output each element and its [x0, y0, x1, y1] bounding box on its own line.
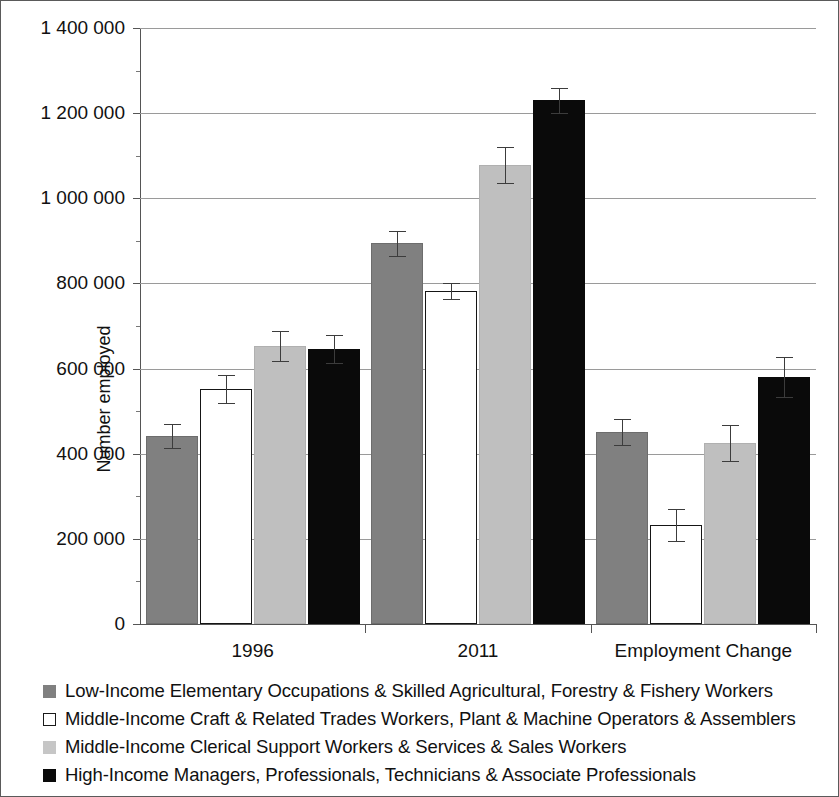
- error-bar-cap-lower: [389, 256, 406, 257]
- error-bar-stem: [172, 424, 173, 448]
- x-group-tick: [365, 624, 366, 633]
- legend-swatch-icon: [43, 685, 56, 698]
- bar: [425, 291, 477, 624]
- error-bar-stem: [280, 331, 281, 361]
- error-bar-cap-lower: [272, 361, 289, 362]
- error-bar-stem: [559, 88, 560, 114]
- y-tick-label: 800 000: [56, 273, 125, 292]
- gridline: [140, 198, 816, 199]
- error-bar-stem: [334, 335, 335, 363]
- error-bar-cap-upper: [272, 331, 289, 332]
- legend-label: Middle-Income Craft & Related Trades Wor…: [65, 708, 796, 730]
- y-tick-major: [133, 28, 140, 29]
- error-bar-cap-lower: [722, 461, 739, 462]
- error-bar-cap-upper: [164, 424, 181, 425]
- y-tick-minor: [136, 411, 140, 412]
- gridline: [140, 369, 816, 370]
- error-bar-cap-upper: [722, 425, 739, 426]
- bar: [704, 443, 756, 624]
- error-bar-stem: [622, 419, 623, 445]
- chart-figure: Number employed 19962011Employment Chang…: [0, 0, 839, 797]
- legend-item: High-Income Managers, Professionals, Tec…: [43, 761, 823, 789]
- error-bar-cap-lower: [497, 183, 514, 184]
- y-tick-minor: [136, 581, 140, 582]
- error-bar-cap-upper: [326, 335, 343, 336]
- gridline: [140, 28, 816, 29]
- bar: [596, 432, 648, 624]
- y-tick-major: [133, 454, 140, 455]
- error-bar-cap-upper: [551, 88, 568, 89]
- y-tick-label: 400 000: [56, 444, 125, 463]
- y-tick-major: [133, 113, 140, 114]
- x-group-tick: [591, 624, 592, 633]
- y-tick-label: 200 000: [56, 529, 125, 548]
- y-tick-minor: [136, 156, 140, 157]
- error-bar-cap-upper: [497, 147, 514, 148]
- legend-item: Low-Income Elementary Occupations & Skil…: [43, 677, 823, 705]
- y-tick-label: 600 000: [56, 359, 125, 378]
- legend-swatch-icon: [43, 713, 56, 726]
- error-bar-cap-lower: [164, 448, 181, 449]
- error-bar-cap-upper: [668, 509, 685, 510]
- error-bar-cap-upper: [614, 419, 631, 420]
- bar: [533, 100, 585, 624]
- y-tick-minor: [136, 71, 140, 72]
- y-tick-major: [133, 198, 140, 199]
- error-bar-cap-lower: [551, 113, 568, 114]
- plot-area: 19962011Employment Change: [140, 28, 816, 624]
- error-bar-cap-lower: [218, 403, 235, 404]
- y-tick-major: [133, 624, 140, 625]
- y-tick-major: [133, 369, 140, 370]
- error-bar-stem: [226, 375, 227, 403]
- error-bar-cap-lower: [614, 445, 631, 446]
- error-bar-stem: [676, 509, 677, 541]
- gridline: [140, 113, 816, 114]
- error-bar-cap-upper: [389, 231, 406, 232]
- error-bar-cap-upper: [776, 357, 793, 358]
- chart-legend: Low-Income Elementary Occupations & Skil…: [43, 677, 823, 789]
- error-bar-cap-lower: [443, 299, 460, 300]
- bar: [200, 389, 252, 624]
- bar: [758, 377, 810, 624]
- bar: [146, 436, 198, 624]
- legend-label: Low-Income Elementary Occupations & Skil…: [65, 680, 773, 702]
- bar: [371, 243, 423, 624]
- x-tick-label: 1996: [140, 640, 365, 662]
- y-tick-major: [133, 539, 140, 540]
- y-axis-line: [140, 28, 141, 624]
- error-bar-stem: [505, 147, 506, 183]
- legend-label: Middle-Income Clerical Support Workers &…: [65, 736, 626, 758]
- x-tick-label: Employment Change: [591, 640, 816, 662]
- x-group-tick: [816, 624, 817, 633]
- gridline: [140, 283, 816, 284]
- error-bar-cap-lower: [668, 541, 685, 542]
- legend-item: Middle-Income Clerical Support Workers &…: [43, 733, 823, 761]
- bar: [254, 346, 306, 624]
- error-bar-cap-upper: [218, 375, 235, 376]
- y-tick-minor: [136, 496, 140, 497]
- y-tick-minor: [136, 241, 140, 242]
- legend-label: High-Income Managers, Professionals, Tec…: [65, 764, 696, 786]
- bar: [479, 165, 531, 624]
- legend-swatch-icon: [43, 741, 56, 754]
- x-tick-label: 2011: [365, 640, 590, 662]
- y-tick-label: 1 400 000: [40, 18, 125, 37]
- y-tick-label: 1 200 000: [40, 103, 125, 122]
- error-bar-stem: [451, 283, 452, 299]
- legend-swatch-icon: [43, 769, 56, 782]
- y-tick-minor: [136, 326, 140, 327]
- bar: [308, 349, 360, 624]
- error-bar-cap-lower: [776, 397, 793, 398]
- error-bar-cap-upper: [443, 283, 460, 284]
- x-axis-line: [140, 624, 816, 625]
- error-bar-stem: [784, 357, 785, 397]
- error-bar-stem: [730, 425, 731, 461]
- error-bar-cap-lower: [326, 363, 343, 364]
- y-tick-major: [133, 283, 140, 284]
- y-tick-label: 0: [114, 614, 125, 633]
- error-bar-stem: [397, 231, 398, 257]
- y-tick-label: 1 000 000: [40, 188, 125, 207]
- legend-item: Middle-Income Craft & Related Trades Wor…: [43, 705, 823, 733]
